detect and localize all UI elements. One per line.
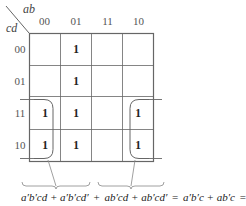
cell-r2-c0: 1 — [42, 107, 48, 119]
col-header-10: 10 — [133, 15, 145, 27]
expr-plus: + — [93, 191, 99, 203]
cell-r3-c3: 1 — [135, 139, 141, 151]
expr-equals-2: = — [240, 191, 246, 203]
row-header-11: 11 — [15, 107, 26, 119]
expr-equals-1: = — [172, 191, 178, 203]
row-header-01: 01 — [15, 75, 26, 87]
col-header-00: 00 — [39, 15, 51, 27]
row-variable-label: cd — [6, 21, 18, 35]
col-header-01: 01 — [71, 15, 82, 27]
col-variable-label: ab — [23, 2, 35, 16]
leader-line-right — [131, 160, 135, 186]
col-header-11: 11 — [102, 15, 113, 27]
cell-r3-c0: 1 — [42, 139, 48, 151]
cell-r2-c1: 1 — [73, 107, 79, 119]
simplification-expression: a′b′cd + a′b′cd′ + ab′cd + ab′cd′ = a′b′… — [21, 191, 246, 203]
karnaugh-map: ab cd 00 01 11 10 00 01 11 10 1 1 1 — [0, 0, 246, 206]
expr-left-part: a′b′cd + a′b′cd′ — [21, 191, 89, 203]
cell-r3-c1: 1 — [73, 139, 79, 151]
row-header-00: 00 — [15, 43, 27, 55]
expr-right-part: ab′cd + ab′cd′ — [104, 191, 168, 203]
leader-line-left — [48, 160, 56, 186]
cell-r1-c1: 1 — [73, 75, 79, 87]
expr-middle: a′b′c + ab′c — [183, 191, 235, 203]
row-header-10: 10 — [15, 139, 27, 151]
cell-r2-c3: 1 — [135, 107, 141, 119]
cell-r0-c1: 1 — [73, 43, 79, 55]
